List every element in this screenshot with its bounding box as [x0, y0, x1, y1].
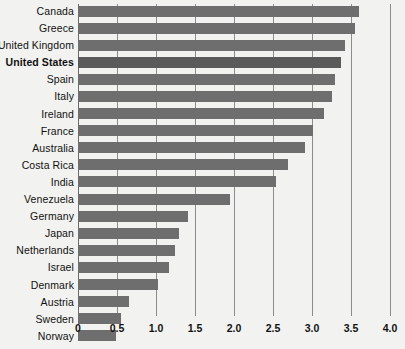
bar — [78, 91, 332, 102]
bar-category-label: Canada — [37, 5, 74, 17]
x-tick-label: 0 — [75, 322, 81, 334]
bar-category-label: Spain — [47, 73, 74, 85]
bar-row: Greece — [0, 22, 405, 39]
bar — [78, 279, 158, 290]
bar — [78, 40, 345, 51]
bar-row: Canada — [0, 5, 405, 22]
bar-category-label: Israel — [48, 261, 74, 273]
bar — [78, 23, 355, 34]
bar-category-label: Italy — [54, 90, 74, 102]
bar-row: Netherlands — [0, 244, 405, 261]
bar-row: Ireland — [0, 108, 405, 125]
bar-row: Italy — [0, 90, 405, 107]
bar-category-label: Australia — [32, 142, 74, 154]
bar-row: Germany — [0, 210, 405, 227]
bar-category-label: India — [51, 176, 74, 188]
x-tick-label: 3.0 — [305, 322, 320, 334]
bar-row: Austria — [0, 296, 405, 313]
bar — [78, 176, 276, 187]
bar — [78, 262, 169, 273]
bar — [78, 125, 313, 136]
bar-row: Denmark — [0, 279, 405, 296]
bar — [78, 108, 324, 119]
bar-row: Australia — [0, 142, 405, 159]
bar-chart: CanadaGreeceUnited KingdomUnited StatesS… — [0, 0, 405, 349]
bar — [78, 57, 341, 68]
plot-area: CanadaGreeceUnited KingdomUnited StatesS… — [0, 0, 405, 349]
bar-row: United States — [0, 56, 405, 73]
bar-row: France — [0, 125, 405, 142]
x-tick-label: 4.0 — [383, 322, 398, 334]
bar — [78, 142, 305, 153]
x-tick-label: 2.5 — [266, 322, 281, 334]
bar-row: Costa Rica — [0, 159, 405, 176]
x-tick-label: 1.0 — [149, 322, 164, 334]
x-tick-label: 1.5 — [188, 322, 203, 334]
bar-row: Japan — [0, 227, 405, 244]
bar — [78, 6, 359, 17]
bar — [78, 245, 175, 256]
bar-row: India — [0, 176, 405, 193]
bar-category-label: Netherlands — [16, 244, 74, 256]
x-tick-label: 0.5 — [110, 322, 125, 334]
bar-category-label: United States — [6, 56, 74, 68]
x-axis-tick-labels: 00.51.01.52.02.53.03.54.0 — [0, 322, 405, 338]
x-tick-label: 3.5 — [344, 322, 359, 334]
bar-category-label: France — [41, 125, 74, 137]
bar — [78, 159, 288, 170]
bar — [78, 211, 188, 222]
bar-category-label: Venezuela — [24, 193, 74, 205]
bar-category-label: Austria — [41, 296, 74, 308]
bar-category-label: Japan — [45, 227, 74, 239]
bar — [78, 194, 230, 205]
bar — [78, 296, 129, 307]
bar — [78, 74, 335, 85]
bar-category-label: Greece — [39, 22, 74, 34]
bar-rows: CanadaGreeceUnited KingdomUnited StatesS… — [0, 5, 405, 347]
bar-row: Venezuela — [0, 193, 405, 210]
bar-category-label: United Kingdom — [0, 39, 74, 51]
bar-row: United Kingdom — [0, 39, 405, 56]
bar-row: Israel — [0, 261, 405, 278]
bar-row: Spain — [0, 73, 405, 90]
bar-category-label: Ireland — [41, 108, 74, 120]
bar-category-label: Germany — [30, 210, 74, 222]
x-tick-label: 2.0 — [227, 322, 242, 334]
bar-category-label: Denmark — [31, 279, 74, 291]
bar — [78, 228, 179, 239]
bar-category-label: Costa Rica — [22, 159, 74, 171]
